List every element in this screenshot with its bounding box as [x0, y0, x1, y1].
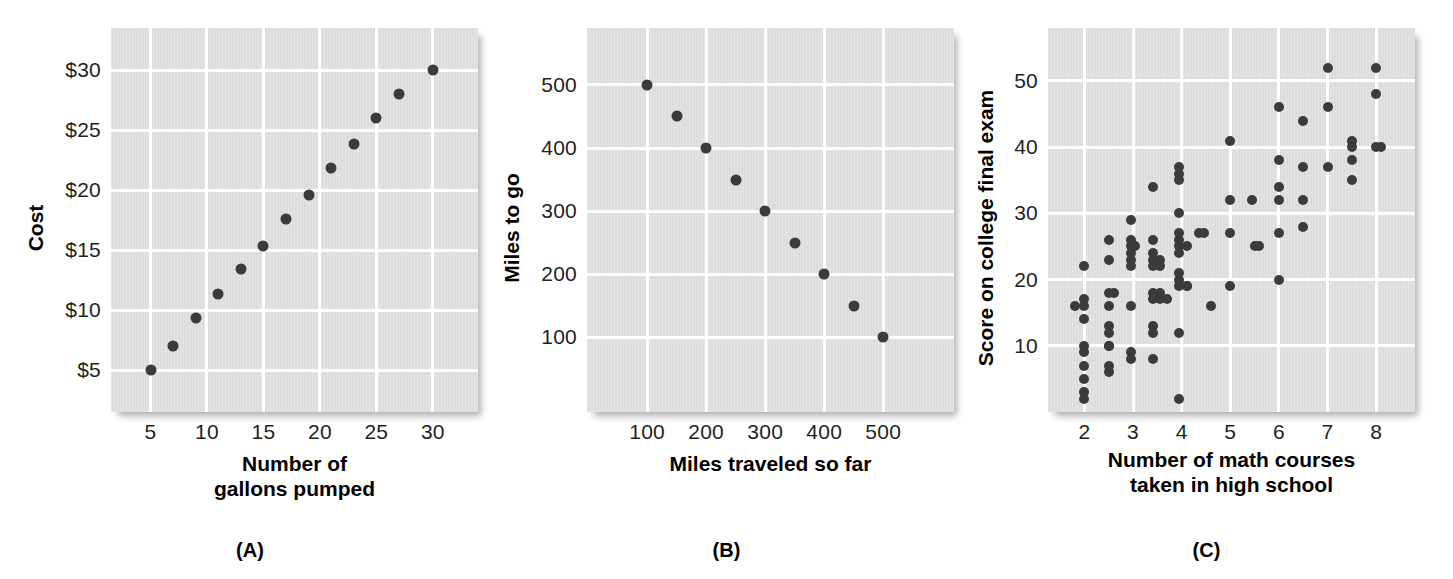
data-point — [1347, 175, 1357, 185]
data-point — [1182, 281, 1192, 291]
gridline-horizontal — [1048, 79, 1415, 82]
data-point — [1298, 162, 1308, 172]
data-point — [642, 79, 653, 90]
gridline-horizontal — [587, 336, 954, 339]
data-point — [1126, 261, 1136, 271]
data-point — [1148, 328, 1158, 338]
gridline-vertical — [149, 28, 152, 412]
gridline-vertical — [262, 28, 265, 412]
data-point — [1104, 328, 1114, 338]
x-tick-label: 30 — [421, 420, 445, 444]
data-point — [1174, 328, 1184, 338]
x-axis-title-a: Number of gallons pumped — [111, 452, 478, 502]
x-tick-label: 10 — [195, 420, 219, 444]
data-point — [1206, 301, 1216, 311]
gridline-vertical — [431, 28, 434, 412]
data-point — [1199, 228, 1209, 238]
plot-area-a — [111, 28, 478, 412]
data-point — [1126, 301, 1136, 311]
panel-a: Cost $5$10$15$20$25$30 51015202530 Numbe… — [0, 0, 500, 579]
data-point — [819, 269, 830, 280]
y-tick-label: 40 — [1014, 135, 1038, 159]
data-point — [168, 341, 179, 352]
gridline-vertical — [318, 28, 321, 412]
y-tick-label: 100 — [541, 325, 577, 349]
data-point — [1376, 142, 1386, 152]
data-point — [1079, 314, 1089, 324]
data-point — [1371, 63, 1381, 73]
data-point — [371, 113, 382, 124]
data-point — [393, 89, 404, 100]
data-point — [326, 163, 337, 174]
y-axis-title-b: Miles to go — [500, 173, 524, 283]
data-point — [1274, 155, 1284, 165]
x-tick-label: 2 — [1079, 420, 1091, 444]
x-axis-title-a-line2: gallons pumped — [111, 477, 478, 502]
gridline-vertical — [1180, 28, 1183, 412]
x-axis-title-b-line1: Miles traveled so far — [587, 452, 954, 477]
data-point — [1274, 102, 1284, 112]
data-point — [1079, 374, 1089, 384]
x-tick-label: 200 — [688, 420, 724, 444]
x-tick-label: 7 — [1322, 420, 1334, 444]
y-tick-label: 10 — [1014, 334, 1038, 358]
panel-c: Score on college final exam 1020304050 2… — [960, 0, 1453, 579]
data-point — [1298, 116, 1308, 126]
data-point — [1155, 261, 1165, 271]
x-tick-label: 8 — [1370, 420, 1382, 444]
x-axis-title-b: Miles traveled so far — [587, 452, 954, 477]
data-point — [1104, 341, 1114, 351]
data-point — [1130, 241, 1140, 251]
data-point — [1323, 162, 1333, 172]
y-tick-label: 50 — [1014, 69, 1038, 93]
data-point — [1126, 354, 1136, 364]
x-tick-label: 100 — [629, 420, 665, 444]
data-point — [145, 365, 156, 376]
gridline-horizontal — [587, 147, 954, 150]
data-point — [1298, 222, 1308, 232]
gridline-vertical — [1375, 28, 1378, 412]
data-point — [1079, 301, 1089, 311]
data-point — [1162, 294, 1172, 304]
data-point — [1371, 89, 1381, 99]
data-point — [1274, 195, 1284, 205]
x-tick-label: 5 — [1224, 420, 1236, 444]
data-point — [760, 206, 771, 217]
y-tick-label: $30 — [65, 58, 101, 82]
data-point — [1225, 281, 1235, 291]
data-point — [1079, 347, 1089, 357]
gridline-vertical — [1277, 28, 1280, 412]
data-point — [1104, 301, 1114, 311]
data-point — [427, 65, 438, 76]
data-point — [671, 111, 682, 122]
data-point — [235, 264, 246, 275]
panel-label-a: (A) — [0, 539, 500, 562]
gridline-horizontal — [1048, 146, 1415, 149]
data-point — [1347, 142, 1357, 152]
data-point — [1070, 301, 1080, 311]
x-axis-title-a-line1: Number of — [111, 452, 478, 477]
y-tick-label: $5 — [77, 358, 101, 382]
x-tick-label: 5 — [145, 420, 157, 444]
data-point — [1274, 275, 1284, 285]
panel-label-c: (C) — [960, 539, 1453, 562]
data-point — [730, 174, 741, 185]
x-tick-label: 300 — [747, 420, 783, 444]
data-point — [1174, 394, 1184, 404]
data-point — [1182, 241, 1192, 251]
y-tick-label: $15 — [65, 238, 101, 262]
y-tick-label: 200 — [541, 262, 577, 286]
data-point — [1109, 288, 1119, 298]
data-point — [1079, 394, 1089, 404]
figure-three-scatterplots: Cost $5$10$15$20$25$30 51015202530 Numbe… — [0, 0, 1453, 579]
gridline-horizontal — [111, 369, 478, 372]
data-point — [1079, 261, 1089, 271]
y-tick-label: 400 — [541, 136, 577, 160]
data-point — [303, 189, 314, 200]
y-tick-label: $20 — [65, 178, 101, 202]
y-tick-label: 500 — [541, 73, 577, 97]
gridline-horizontal — [111, 309, 478, 312]
x-axis-title-c-line2: taken in high school — [1048, 473, 1415, 498]
x-tick-label: 15 — [252, 420, 276, 444]
gridline-horizontal — [111, 249, 478, 252]
